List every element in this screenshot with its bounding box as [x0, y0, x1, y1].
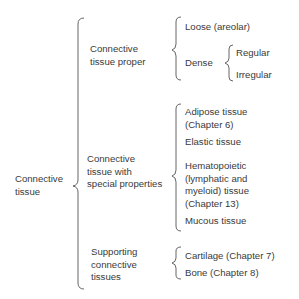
- special-brace: [172, 104, 181, 231]
- item-dense: Dense: [185, 57, 213, 70]
- item-mucous-tissue: Mucous tissue: [185, 215, 246, 228]
- item-hematopoietic-tissue: Hematopoietic (lymphatic and myeloid) ti…: [185, 160, 249, 210]
- dense-brace: [225, 45, 233, 81]
- proper-brace: [172, 17, 181, 80]
- item-adipose-tissue: Adipose tissue (Chapter 6): [185, 106, 247, 131]
- item-bone: Bone (Chapter 8): [185, 267, 259, 280]
- main-brace: [73, 18, 84, 289]
- item-elastic-tissue: Elastic tissue: [185, 136, 241, 149]
- item-loose-areolar: Loose (areolar): [185, 21, 250, 34]
- root-label: Connective tissue: [15, 173, 63, 198]
- item-cartilage: Cartilage (Chapter 7): [185, 250, 275, 263]
- item-dense-regular: Regular: [236, 47, 270, 60]
- category-special-properties: Connective tissue with special propertie…: [87, 153, 162, 191]
- category-supporting-connective-tissues: Supporting connective tissues: [91, 246, 137, 284]
- supporting-brace: [172, 247, 181, 279]
- category-connective-tissue-proper: Connective tissue proper: [90, 43, 145, 68]
- item-dense-irregular: Irregular: [236, 69, 272, 82]
